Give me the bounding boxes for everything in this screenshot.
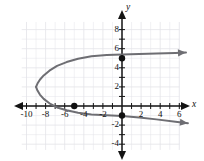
x-tick-label: -6 bbox=[58, 109, 72, 119]
x-axis-label: x bbox=[192, 99, 196, 109]
y-tick-label: -2 bbox=[103, 119, 119, 129]
y-tick-label: 6 bbox=[103, 43, 119, 53]
x-tick-label: 2 bbox=[134, 109, 148, 119]
graph-figure: -10-8-6-4-22468642-2-4 x y bbox=[0, 0, 204, 161]
x-tick-label: 4 bbox=[153, 109, 167, 119]
axes bbox=[14, 10, 190, 160]
coordinate-plane-svg bbox=[0, 0, 204, 161]
x-tick-label: -10 bbox=[20, 109, 34, 119]
x-tick-label: -4 bbox=[77, 109, 91, 119]
y-tick-label: 4 bbox=[103, 62, 119, 72]
y-tick-label: 2 bbox=[103, 81, 119, 91]
y-tick-label: -4 bbox=[103, 138, 119, 148]
x-tick-label: -8 bbox=[39, 109, 53, 119]
x-tick-label: -2 bbox=[96, 109, 110, 119]
x-tick-label: 6 bbox=[172, 109, 186, 119]
y-tick-label: 8 bbox=[103, 24, 119, 34]
y-axis-label: y bbox=[126, 2, 130, 12]
grid-lines bbox=[22, 22, 180, 150]
